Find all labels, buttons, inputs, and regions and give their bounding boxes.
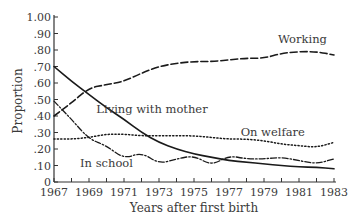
x-tick-label: 1981 [285,186,313,199]
x-tick-label: 1975 [180,186,208,199]
x-tick-label: 1967 [40,186,68,199]
x-tick-label: 1979 [250,186,278,199]
label-in-school: In school [80,156,133,170]
y-tick-label: .60 [34,77,52,90]
line-chart: 0.10.20.30.40.50.60.70.80.901.0019671969… [0,0,357,220]
y-tick-label: .80 [34,44,52,57]
x-tick-label: 1983 [320,186,348,199]
y-axis-label: Proportion [11,68,25,134]
y-tick-label: .50 [34,94,52,107]
x-tick-label: 1971 [110,186,138,199]
label-living-with-mother: Living with mother [96,102,208,116]
y-tick-label: .30 [34,127,52,140]
y-tick-label: 1.00 [27,11,52,24]
x-tick-label: 1973 [145,186,173,199]
series-living-with-mother [54,67,334,169]
label-on-welfare: On welfare [241,125,305,139]
x-axis-label: Years after first birth [129,201,259,215]
label-working: Working [278,32,328,46]
y-tick-label: .40 [34,110,52,123]
x-tick-label: 1977 [215,186,243,199]
y-tick-label: .70 [34,61,52,74]
y-tick-label: .10 [34,160,52,173]
y-tick-label: .20 [34,143,52,156]
y-tick-label: .90 [34,28,52,41]
x-tick-label: 1969 [75,186,103,199]
